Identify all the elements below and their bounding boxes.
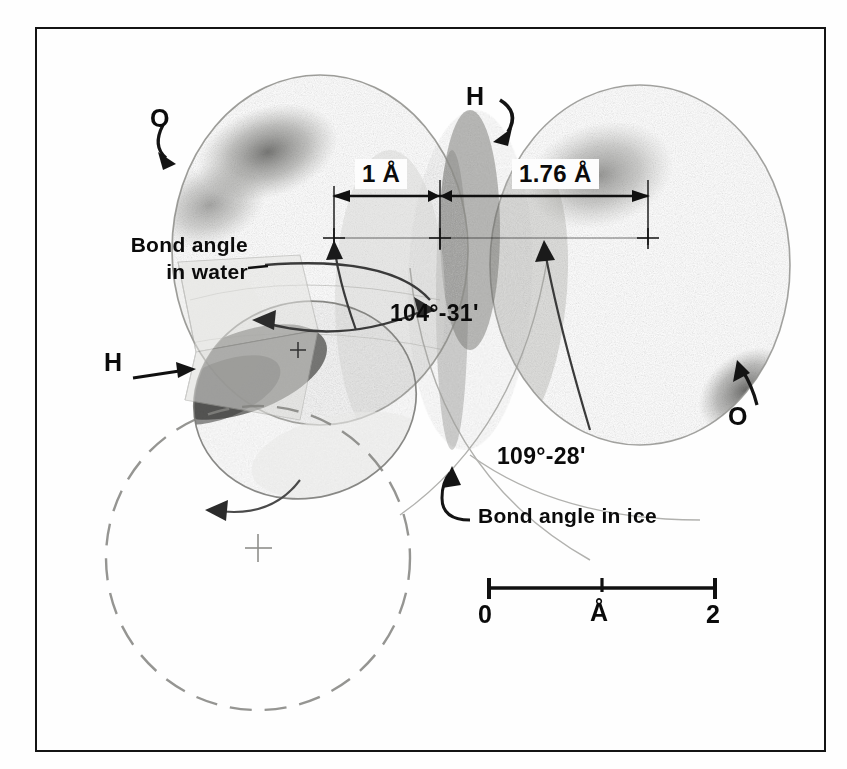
hydrogen-left-label: H [104,348,122,377]
scale-end-label: 2 [706,600,720,629]
figure-canvas: O H H O 1 Å 1.76 Å Bond angle in water 1… [0,0,847,769]
water-angle-caption-line2: in water [166,260,248,283]
water-angle-value: 104°-31' [390,300,479,327]
figure-border [35,27,826,752]
scale-unit-label: Å [590,598,608,627]
water-angle-caption-line1: Bond angle [131,233,248,256]
covalent-bond-dimension-label: 1 Å [355,159,407,189]
hydrogen-bond-dimension-label: 1.76 Å [512,159,599,189]
hydrogen-top-label: H [466,82,484,111]
ice-angle-value: 109°-28' [497,443,586,470]
scale-start-label: 0 [478,600,492,629]
water-angle-caption: Bond angle in water [108,231,248,285]
oxygen-right-label: O [728,402,748,431]
ice-angle-caption: Bond angle in ice [478,504,657,528]
oxygen-left-label: O [150,104,170,133]
